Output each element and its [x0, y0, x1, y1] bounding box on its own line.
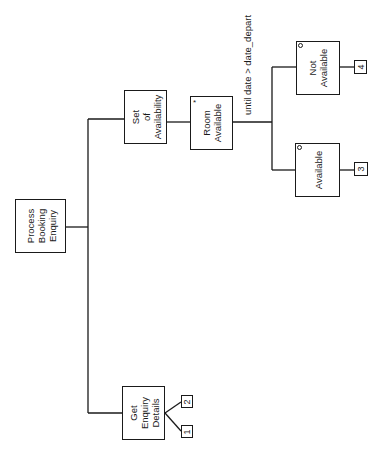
node-not-available: Not Available [296, 41, 340, 95]
label-line: Room [201, 104, 212, 142]
label-line: Enquiry [138, 397, 149, 429]
not-available-label: Not Available [307, 49, 329, 87]
jsp-diagram: Process Booking Enquiry Get Enquiry Deta… [0, 0, 387, 453]
node-get-enquiry-details: Get Enquiry Details [122, 386, 165, 440]
available-label: Available [312, 151, 323, 189]
selection-marker [297, 145, 302, 150]
label-line: Not [307, 49, 318, 87]
selection-marker [298, 43, 303, 48]
operation-4: 4 [354, 60, 367, 74]
label-line: Booking [35, 209, 46, 243]
operation-number: 4 [356, 64, 365, 69]
operation-3: 3 [354, 162, 368, 176]
label-line: Details [149, 397, 160, 429]
label-line: of [140, 95, 151, 140]
label-line: Availability [151, 95, 162, 140]
set-availability-label: Set of Availability [129, 95, 162, 140]
operation-2: 2 [181, 395, 193, 408]
label-line: Available [318, 49, 329, 87]
room-available-label: Room Available [201, 104, 223, 142]
iteration-marker: * [193, 99, 196, 107]
node-room-available: * Room Available [190, 96, 233, 150]
label-line: Get [127, 397, 138, 429]
root-process-booking-enquiry: Process Booking Enquiry [15, 199, 66, 253]
root-label: Process Booking Enquiry [24, 209, 57, 243]
label-line: Process [24, 209, 35, 243]
iteration-condition: until date > date_depart [242, 15, 253, 115]
get-enquiry-label: Get Enquiry Details [127, 397, 160, 429]
operation-1: 1 [181, 425, 193, 438]
node-set-of-availability: Set of Availability [124, 90, 167, 144]
operation-number: 3 [357, 166, 366, 171]
label-line: Available [312, 151, 323, 189]
node-available: Available [295, 143, 340, 197]
label-line: Available [212, 104, 223, 142]
label-line: Set [129, 95, 140, 140]
operation-number: 1 [183, 429, 192, 434]
operation-number: 2 [183, 399, 192, 404]
label-line: Enquiry [46, 209, 57, 243]
